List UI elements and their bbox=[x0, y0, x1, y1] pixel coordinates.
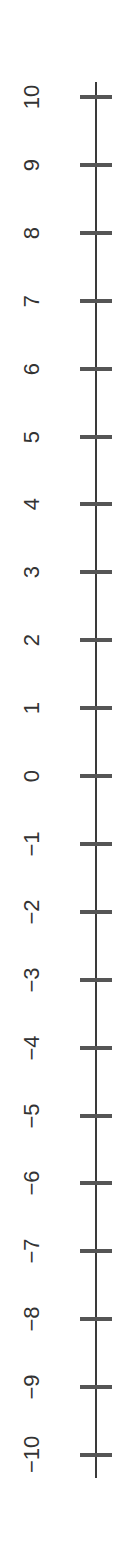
tick-mark bbox=[80, 706, 112, 710]
tick-label: −7 bbox=[20, 1233, 44, 1269]
tick-label: 6 bbox=[20, 351, 44, 387]
tick-label: 3 bbox=[20, 554, 44, 590]
tick-label: 10 bbox=[20, 79, 44, 115]
tick-mark bbox=[80, 1317, 112, 1321]
tick-label: −4 bbox=[20, 1030, 44, 1066]
tick-mark bbox=[80, 1181, 112, 1185]
tick-mark bbox=[80, 435, 112, 439]
tick-label: −3 bbox=[20, 962, 44, 998]
tick-label: −8 bbox=[20, 1301, 44, 1337]
tick-label: 4 bbox=[20, 486, 44, 522]
number-line: 109876543210−1−2−3−4−5−6−7−8−9−10 bbox=[0, 0, 133, 1566]
tick-mark bbox=[80, 774, 112, 778]
tick-mark bbox=[80, 842, 112, 846]
tick-mark bbox=[80, 231, 112, 235]
tick-mark bbox=[80, 1385, 112, 1389]
tick-label: 0 bbox=[20, 758, 44, 794]
tick-label: 9 bbox=[20, 147, 44, 183]
tick-mark bbox=[80, 95, 112, 99]
tick-label: −2 bbox=[20, 894, 44, 930]
tick-label: 8 bbox=[20, 215, 44, 251]
tick-mark bbox=[80, 910, 112, 914]
tick-mark bbox=[80, 367, 112, 371]
tick-label: 5 bbox=[20, 419, 44, 455]
tick-label: −5 bbox=[20, 1098, 44, 1134]
tick-mark bbox=[80, 502, 112, 506]
tick-mark bbox=[80, 978, 112, 982]
tick-mark bbox=[80, 1453, 112, 1457]
tick-mark bbox=[80, 570, 112, 574]
axis-line bbox=[95, 82, 97, 1478]
tick-label: −10 bbox=[20, 1437, 44, 1473]
tick-mark bbox=[80, 299, 112, 303]
tick-label: −6 bbox=[20, 1165, 44, 1201]
tick-label: −1 bbox=[20, 826, 44, 862]
tick-mark bbox=[80, 638, 112, 642]
tick-mark bbox=[80, 1046, 112, 1050]
tick-label: −9 bbox=[20, 1369, 44, 1405]
tick-label: 1 bbox=[20, 690, 44, 726]
tick-mark bbox=[80, 163, 112, 167]
tick-label: 2 bbox=[20, 622, 44, 658]
tick-mark bbox=[80, 1114, 112, 1118]
tick-mark bbox=[80, 1249, 112, 1253]
tick-label: 7 bbox=[20, 283, 44, 319]
